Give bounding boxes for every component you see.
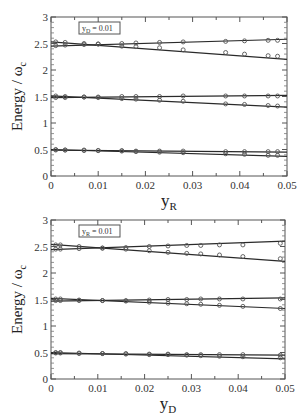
y-tick-label: 1 — [43, 117, 49, 129]
x-tick-label: 0 — [48, 179, 54, 191]
y-axis-title: Energy / ωc — [9, 61, 28, 131]
y-tick-label: 0 — [43, 170, 49, 182]
y-tick-label: 0.5 — [34, 144, 48, 156]
x-tick-label: 0.04 — [229, 382, 249, 394]
y-tick-label: 1.5 — [34, 91, 48, 103]
data-point-marker — [147, 249, 151, 253]
x-tick-label: 0.01 — [88, 382, 107, 394]
data-point-marker — [266, 104, 270, 108]
chart-panel-1: 00.010.020.030.040.0500.511.522.53yD = 0… — [9, 11, 297, 212]
x-tick-label: 0.05 — [277, 179, 297, 191]
x-axis-title: yD — [160, 394, 177, 415]
y-tick-label: 1 — [43, 320, 49, 332]
data-point-marker — [185, 243, 189, 247]
y-tick-label: 1.5 — [34, 294, 48, 306]
data-point-marker — [276, 38, 280, 42]
x-tick-label: 0.04 — [230, 179, 250, 191]
y-tick-label: 2.5 — [34, 241, 48, 253]
x-tick-label: 0.02 — [136, 179, 155, 191]
y-tick-label: 3 — [43, 214, 49, 226]
x-tick-label: 0.01 — [89, 179, 108, 191]
data-point-marker — [266, 54, 270, 58]
x-tick-label: 0.03 — [182, 382, 202, 394]
x-tick-label: 0 — [48, 382, 54, 394]
y-tick-label: 0.5 — [34, 347, 48, 359]
data-point-marker — [278, 257, 282, 261]
y-tick-label: 2 — [43, 267, 49, 279]
figure: 00.010.020.030.040.0500.511.522.53yD = 0… — [0, 0, 308, 419]
x-tick-label: 0.03 — [183, 179, 203, 191]
data-point-marker — [241, 243, 245, 247]
y-tick-label: 0 — [43, 373, 49, 385]
y-tick-label: 2.5 — [34, 38, 48, 50]
x-axis-title: yR — [161, 191, 178, 212]
data-point-marker — [224, 51, 228, 55]
data-point-marker — [158, 46, 162, 50]
y-axis-title: Energy / ωc — [9, 264, 28, 334]
y-tick-label: 2 — [43, 64, 49, 76]
x-tick-label: 0.02 — [135, 382, 154, 394]
data-point-marker — [243, 52, 247, 56]
y-tick-label: 3 — [43, 11, 49, 23]
chart-panel-2: 00.010.020.030.040.0500.511.522.53yR = 0… — [9, 214, 295, 415]
fit-line — [51, 244, 285, 261]
data-point-marker — [276, 54, 280, 58]
x-tick-label: 0.05 — [275, 382, 295, 394]
